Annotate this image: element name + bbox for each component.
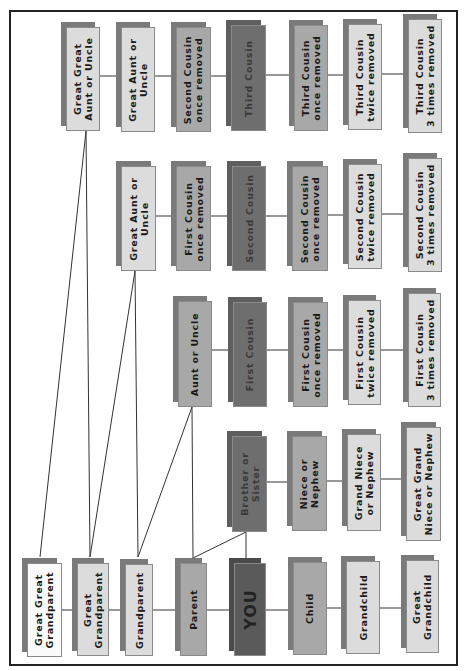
node-you: YOU xyxy=(234,563,266,656)
node-great-aunt-or-uncle-2: Great Aunt or Uncle xyxy=(121,27,155,132)
node-third-cousin-3-times-removed: Third Cousin 3 times removed xyxy=(408,19,442,133)
node-third-cousin-once-removed: Third Cousin once removed xyxy=(294,25,328,131)
node-great-great-grandparent: Great Great Grandparent xyxy=(27,563,62,657)
node-parent: Parent xyxy=(180,563,207,656)
node-label: Grand Niece or Nephew xyxy=(353,445,375,519)
node-great-aunt-or-uncle: Great Aunt or Uncle xyxy=(121,166,156,271)
node-label: Great Grandchild xyxy=(412,573,434,639)
node-label: Second Cousin xyxy=(244,174,255,263)
node-third-cousin-twice-removed: Third Cousin twice removed xyxy=(348,24,382,130)
node-second-cousin-twice-removed: Second Cousin twice removed xyxy=(348,164,382,269)
node-niece-or-nephew: Niece or Nephew xyxy=(292,436,327,531)
node-aunt-or-uncle: Aunt or Uncle xyxy=(178,301,212,407)
node-label: First Cousin twice removed xyxy=(354,308,376,397)
node-label: Grandchild xyxy=(358,574,369,640)
node-label: First Cousin xyxy=(245,318,256,391)
node-great-grand-niece-or-nephew: Great Grand Niece or Nephew xyxy=(406,427,441,541)
node-grandchild: Grandchild xyxy=(346,561,380,654)
node-label: Niece or Nephew xyxy=(299,458,321,509)
node-label: Second Cousin 3 times removed xyxy=(414,164,436,266)
node-first-cousin-once-removed-2: First Cousin once removed xyxy=(176,166,211,271)
node-second-cousin: Second Cousin xyxy=(232,166,266,271)
node-label: Great Aunt or Uncle xyxy=(128,177,150,261)
node-label: Great Great Aunt or Uncle xyxy=(72,37,94,120)
node-label: Great Grand Niece or Nephew xyxy=(413,433,435,536)
node-label: Second Cousin once removed xyxy=(299,174,321,263)
node-label: Brother or Sister xyxy=(239,452,261,515)
node-label: Second Cousin twice removed xyxy=(354,172,376,261)
node-brother-or-sister: Brother or Sister xyxy=(232,436,267,532)
node-label: Third Cousin twice removed xyxy=(354,32,376,121)
node-first-cousin-twice-removed: First Cousin twice removed xyxy=(348,300,381,405)
node-grand-niece-or-nephew: Grand Niece or Nephew xyxy=(347,434,381,531)
node-label: Aunt or Uncle xyxy=(190,312,201,395)
node-label: Child xyxy=(305,593,316,624)
node-label: Third Cousin once removed xyxy=(300,35,322,120)
node-great-grandparent: Great Grandparent xyxy=(77,563,109,656)
node-label: First Cousin 3 times removed xyxy=(414,299,436,401)
node-great-grandchild: Great Grandchild xyxy=(406,560,439,653)
node-first-cousin-once-removed: First Cousin once removed xyxy=(293,302,328,407)
node-third-cousin: Third Cousin xyxy=(231,25,266,131)
node-first-cousin-3-times-removed: First Cousin 3 times removed xyxy=(408,293,441,407)
node-second-cousin-once-removed: Second Cousin once removed xyxy=(292,166,328,271)
node-child: Child xyxy=(293,562,327,655)
node-label: YOU xyxy=(245,589,256,630)
node-label: Third Cousin 3 times removed xyxy=(414,25,436,127)
node-label: First Cousin once removed xyxy=(300,312,322,397)
node-grandparent: Grandparent xyxy=(125,564,153,656)
node-label: Third Cousin xyxy=(243,40,254,117)
node-label: Grandparent xyxy=(134,572,145,649)
node-first-cousin: First Cousin xyxy=(233,302,267,407)
node-second-cousin-once-removed-2: Second Cousin once removed xyxy=(176,27,211,132)
node-label: Great Grandparent xyxy=(82,571,104,648)
node-second-cousin-3-times-removed: Second Cousin 3 times removed xyxy=(408,158,442,272)
node-great-great-aunt-or-uncle: Great Great Aunt or Uncle xyxy=(66,27,100,131)
node-label: Great Aunt or Uncle xyxy=(127,38,149,122)
node-label: Great Great Grandparent xyxy=(34,572,56,649)
node-label: Parent xyxy=(188,589,199,629)
node-label: First Cousin once removed xyxy=(183,176,205,261)
node-label: Second Cousin once removed xyxy=(183,35,205,124)
